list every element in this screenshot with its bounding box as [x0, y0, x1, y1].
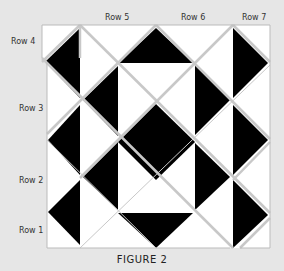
figure-caption: FIGURE 2	[0, 254, 284, 265]
dark-triangles	[45, 28, 268, 248]
quilt-diagram	[0, 0, 284, 271]
